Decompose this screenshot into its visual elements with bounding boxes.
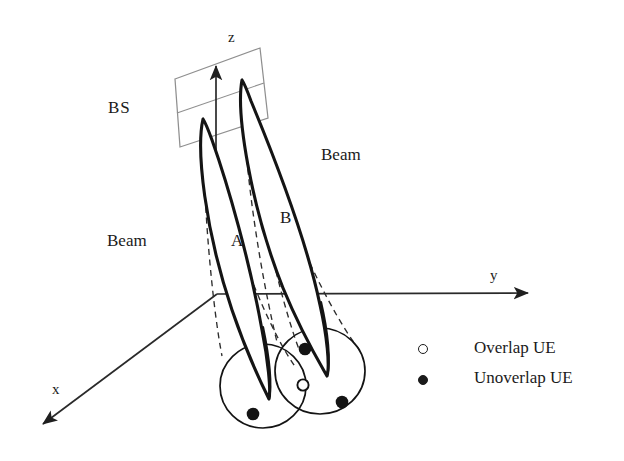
ue-unoverlap-1	[299, 343, 312, 356]
legend: Overlap UE Unoverlap UE	[418, 336, 608, 396]
legend-label-unoverlap-ue: Unoverlap UE	[474, 368, 573, 388]
filled-circle-icon	[418, 375, 428, 385]
legend-item-overlap-ue: Overlap UE	[418, 336, 608, 366]
legend-item-unoverlap-ue: Unoverlap UE	[418, 366, 608, 396]
base-station-label: BS	[108, 99, 131, 116]
ue-unoverlap-3	[247, 408, 260, 421]
legend-label-overlap-ue: Overlap UE	[474, 338, 556, 358]
axis-x	[43, 294, 217, 424]
ue-unoverlap-2	[336, 396, 349, 409]
beam-caption-left: Beam	[107, 232, 147, 249]
coverage-circles	[220, 328, 365, 428]
beam-label-b: B	[280, 209, 291, 226]
ue-overlap-1	[297, 379, 308, 390]
axis-label-x: x	[52, 382, 60, 397]
axis-label-y: y	[490, 268, 498, 283]
open-circle-icon	[418, 344, 428, 354]
beam-label-a: A	[231, 232, 243, 249]
beam-caption-right: Beam	[321, 146, 361, 163]
figure-canvas: z y x BS Beam Beam A B Overlap UE Unover…	[0, 0, 624, 461]
axis-y	[217, 293, 528, 294]
axis-label-z: z	[228, 30, 235, 45]
